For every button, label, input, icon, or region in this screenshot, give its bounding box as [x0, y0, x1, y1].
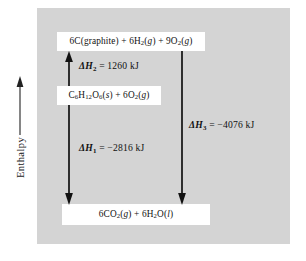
transition-label-dH3: ΔH3 = −4076 kJ — [189, 119, 254, 131]
species-formula-glucose: C6H12O6(s) + 6O2(g) — [68, 90, 149, 100]
enthalpy-diagram: Enthalpy 6C(graphite) + 6H2(g) + 9O2(g) … — [0, 0, 306, 261]
species-formula-products: 6CO2(g) + 6H2O(l) — [99, 209, 173, 219]
species-box-elements: 6C(graphite) + 6H2(g) + 9O2(g) — [57, 32, 205, 51]
species-box-products: 6CO2(g) + 6H2O(l) — [62, 204, 210, 225]
species-formula-elements: 6C(graphite) + 6H2(g) + 9O2(g) — [70, 36, 193, 46]
enthalpy-axis-label: Enthalpy — [15, 110, 26, 206]
species-box-glucose: C6H12O6(s) + 6O2(g) — [57, 86, 161, 105]
transition-label-dH2: ΔH2 = 1260 kJ — [79, 60, 139, 72]
enthalpy-axis: Enthalpy — [4, 60, 34, 235]
transition-label-dH1: ΔH1 = −2816 kJ — [79, 142, 144, 154]
